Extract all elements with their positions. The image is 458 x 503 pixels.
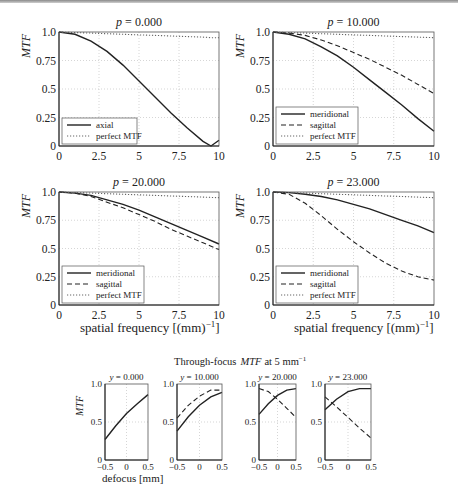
y-axis-label: MTF	[233, 33, 247, 59]
panel-p23: 02.557.51000.250.50.751.0p = 23.000MTFme…	[233, 175, 440, 321]
y-tick-label: 0.5	[42, 83, 57, 95]
panel-tf-y20: −0.500.500.51.0y = 20.000	[245, 372, 302, 472]
xlabel-right: spatial frequency [(mm)−1]	[294, 319, 434, 335]
through-focus-title: Through-focusMTFat 5 mm−1	[174, 355, 307, 367]
y-tick-label: 0	[98, 455, 103, 465]
x-tick-label: 5	[136, 150, 142, 162]
legend-label: meridional	[310, 268, 349, 278]
y-tick-label: 0.5	[311, 417, 323, 427]
x-tick-label: 0	[124, 462, 129, 472]
panel-title: y = 23.000	[328, 372, 368, 382]
defocus-label: defocus [mm]	[102, 472, 163, 484]
panel-title: p = 10.000	[327, 15, 380, 29]
x-tick-label: 0	[197, 462, 202, 472]
x-tick-label: 0.5	[290, 462, 302, 472]
panel-title: p = 23.000	[327, 175, 380, 189]
y-tick-label: 0	[264, 140, 270, 152]
panel-p0: 02.557.51000.250.50.751.0p = 0.000MTFaxi…	[19, 15, 225, 162]
x-tick-label: 0	[346, 462, 351, 472]
legend-label: perfect MTF	[310, 290, 356, 300]
y-tick-label: 0.5	[256, 243, 271, 255]
y-tick-label: 1.0	[256, 26, 271, 38]
y-tick-label: 1.0	[311, 379, 323, 389]
y-tick-label: 1.0	[256, 186, 271, 198]
x-tick-label: 2.5	[92, 150, 107, 162]
y-tick-label: 0.5	[163, 417, 175, 427]
x-tick-label: 0	[56, 309, 62, 321]
xlabel-left: spatial frequency [(mm)−1]	[80, 319, 220, 335]
x-tick-label: 0	[270, 150, 276, 162]
legend-label: sagittal	[310, 279, 336, 289]
y-tick-label: 1.0	[245, 379, 257, 389]
legend-label: axial	[96, 120, 114, 130]
y-tick-label: 0.25	[250, 271, 270, 283]
y-tick-label: 0.25	[250, 112, 270, 124]
panel-tf-y0: −0.500.500.51.0y = 0.000MTF	[74, 372, 154, 472]
x-tick-label: 0.5	[142, 462, 154, 472]
y-axis-label: MTF	[74, 395, 85, 417]
legend-label: perfect MTF	[96, 290, 142, 300]
panel-tf-y23: −0.500.500.51.0y = 23.000	[311, 372, 377, 472]
y-tick-label: 1.0	[91, 379, 103, 389]
y-tick-label: 1.0	[42, 26, 57, 38]
y-axis-label: MTF	[19, 33, 33, 59]
y-tick-label: 0.75	[250, 214, 270, 226]
panel-title: y = 0.000	[109, 372, 144, 382]
y-tick-label: 0	[318, 455, 323, 465]
series-sagittal	[177, 390, 222, 418]
legend-label: meridional	[310, 109, 349, 119]
panel-title: y = 20.000	[257, 372, 297, 382]
y-axis-label: MTF	[19, 193, 33, 219]
x-tick-label: 2.5	[306, 150, 321, 162]
y-tick-label: 0.25	[36, 271, 56, 283]
x-tick-label: 7.5	[387, 150, 402, 162]
x-tick-label: 0.5	[365, 462, 377, 472]
panel-title: p = 0.000	[115, 15, 162, 29]
y-tick-label: 0.5	[91, 417, 103, 427]
x-tick-label: 0	[270, 309, 276, 321]
panel-title: y = 10.000	[179, 372, 219, 382]
y-tick-label: 0.25	[36, 112, 56, 124]
legend-label: sagittal	[310, 120, 336, 130]
y-tick-label: 1.0	[42, 186, 57, 198]
panel-title: p = 20.000	[112, 175, 165, 189]
x-tick-label: 5	[351, 150, 357, 162]
x-tick-label: 0	[275, 462, 280, 472]
legend-label: sagittal	[96, 279, 122, 289]
series-meridional	[259, 389, 296, 415]
y-tick-label: 0	[252, 455, 257, 465]
x-tick-label: 10	[428, 150, 440, 162]
y-tick-label: 0	[264, 299, 270, 311]
y-tick-label: 0.75	[250, 55, 270, 67]
panel-p20: 02.557.51000.250.50.751.0p = 20.000MTFme…	[19, 175, 225, 321]
panel-tf-y10: −0.500.500.51.0y = 10.000	[163, 372, 228, 472]
y-axis-label: MTF	[233, 193, 247, 219]
mtf-figure: 02.557.51000.250.50.751.0p = 0.000MTFaxi…	[0, 0, 458, 503]
y-tick-label: 0.75	[36, 214, 56, 226]
y-tick-label: 1.0	[163, 379, 175, 389]
y-tick-label: 0.5	[42, 243, 57, 255]
x-tick-label: 7.5	[172, 150, 187, 162]
y-tick-label: 0.75	[36, 55, 56, 67]
y-tick-label: 0	[50, 140, 56, 152]
y-tick-label: 0	[50, 299, 56, 311]
y-tick-label: 0	[170, 455, 175, 465]
legend-label: perfect MTF	[310, 131, 356, 141]
x-tick-label: 0	[56, 150, 62, 162]
y-tick-label: 0.5	[256, 83, 271, 95]
panel-p10: 02.557.51000.250.50.751.0p = 10.000MTFme…	[233, 15, 440, 162]
legend-label: meridional	[96, 268, 135, 278]
y-tick-label: 0.5	[245, 417, 257, 427]
series-meridional	[59, 192, 219, 244]
legend-label: perfect MTF	[96, 131, 142, 141]
x-tick-label: 10	[213, 150, 225, 162]
x-tick-label: 0.5	[216, 462, 228, 472]
